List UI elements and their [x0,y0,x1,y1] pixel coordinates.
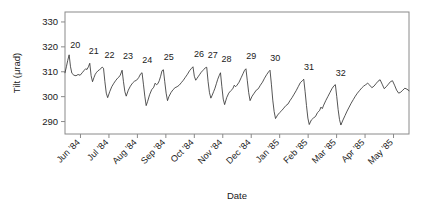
y-tick-label: 330 [42,16,58,27]
cycle-label-31: 31 [304,62,314,72]
y-tick-label: 320 [42,41,58,52]
cycle-label-25: 25 [164,52,174,62]
cycle-label-23: 23 [123,51,133,61]
cycle-label-29: 29 [246,51,256,61]
cycle-label-20: 20 [70,40,80,50]
cycle-label-32: 32 [336,68,346,78]
y-tick-label: 300 [42,91,58,102]
y-tick-label: 290 [42,116,58,127]
cycle-label-22: 22 [105,50,115,60]
tilt-vs-date-line-chart: 290300310320330 Jun '84Jul '84Aug '84Sep… [0,0,425,213]
y-axis-title: Tilt (μrad) [11,53,22,93]
chart-figure: 290300310320330 Jun '84Jul '84Aug '84Sep… [0,0,425,213]
cycle-label-26: 26 [194,49,204,59]
cycle-label-28: 28 [221,54,231,64]
figure-background [0,0,425,213]
y-tick-label: 310 [42,66,58,77]
cycle-label-21: 21 [89,46,99,56]
cycle-label-24: 24 [142,55,152,65]
x-axis-title: Date [227,190,247,201]
cycle-label-27: 27 [208,50,218,60]
cycle-label-30: 30 [270,53,280,63]
